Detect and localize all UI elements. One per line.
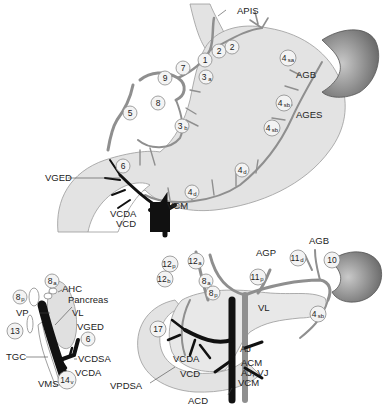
- label-ages: AGES: [296, 109, 322, 120]
- svg-text:14: 14: [60, 375, 70, 385]
- svg-text:v: v: [71, 379, 74, 385]
- label-aj: AJ: [240, 343, 251, 354]
- svg-text:2: 2: [217, 46, 222, 56]
- node-8a-frontal: 8a: [199, 274, 213, 288]
- label-agb: AGB: [296, 69, 316, 80]
- node-11d: 11d: [290, 250, 306, 266]
- node-2b: 2: [225, 40, 239, 54]
- node-8p-frontal: 8p: [206, 286, 220, 300]
- label-vcd: VCD: [180, 368, 200, 379]
- svg-text:11: 11: [291, 253, 300, 263]
- label-vged: VGED: [45, 172, 72, 183]
- node-6-lateral: 6: [81, 332, 95, 346]
- svg-text:8: 8: [202, 276, 207, 286]
- label-acd: ACD: [188, 395, 208, 406]
- label-vcm: VCM: [167, 200, 188, 211]
- node-4sb-frontal: 4sb: [310, 306, 326, 322]
- svg-text:4: 4: [312, 309, 317, 319]
- svg-text:d: d: [300, 257, 303, 263]
- svg-text:2: 2: [230, 42, 235, 52]
- svg-text:8: 8: [48, 276, 53, 286]
- label-vcdsa: VCDSA: [78, 353, 111, 364]
- node-1: 1: [198, 53, 212, 67]
- node-12b: 12b: [157, 271, 173, 287]
- svg-text:4: 4: [238, 165, 243, 175]
- svg-text:3: 3: [178, 121, 183, 131]
- label-pancreas: Pancreas: [68, 294, 108, 305]
- node-11p: 11p: [250, 269, 266, 285]
- label-vcda: VCDA: [173, 353, 200, 364]
- svg-text:3: 3: [202, 72, 207, 82]
- svg-text:8: 8: [156, 98, 161, 108]
- label-agp: AGP: [256, 247, 276, 258]
- node-7: 7: [176, 61, 190, 75]
- svg-text:5: 5: [128, 108, 133, 118]
- svg-text:sb: sb: [272, 127, 279, 133]
- svg-text:10: 10: [327, 255, 337, 265]
- pancreas-lateral-panel: AHC Pancreas VP VL VGED TGC VCDSA VCDA V…: [6, 274, 111, 389]
- svg-text:9: 9: [163, 73, 168, 83]
- label-vcda: VCDA: [75, 367, 102, 378]
- label-apis: APIS: [237, 5, 259, 16]
- svg-text:13: 13: [10, 326, 20, 336]
- node-4sb-2: 4sb: [264, 120, 280, 136]
- node-8p-lateral: 8p: [13, 290, 27, 304]
- node-12a: 12a: [188, 253, 204, 269]
- label-vl: VL: [72, 307, 84, 318]
- label-vl: VL: [258, 302, 270, 313]
- node-3b: 3b: [175, 119, 189, 133]
- label-vcd: VCD: [116, 218, 136, 229]
- svg-text:sa: sa: [288, 57, 295, 63]
- svg-text:sb: sb: [318, 313, 325, 319]
- svg-text:8: 8: [209, 288, 214, 298]
- svg-text:12: 12: [162, 259, 172, 269]
- node-8a-lateral: 8a: [45, 274, 59, 288]
- label-vms: VMS: [38, 378, 59, 389]
- node-4sb-1: 4sb: [276, 95, 292, 111]
- svg-text:17: 17: [153, 324, 163, 334]
- label-agb: AGB: [309, 235, 329, 246]
- node-12p: 12p: [162, 256, 178, 272]
- svg-text:sb: sb: [284, 102, 291, 108]
- svg-text:d: d: [193, 191, 196, 197]
- svg-text:8: 8: [16, 292, 21, 302]
- label-ahc: AHC: [62, 283, 82, 294]
- label-tgc: TGC: [6, 351, 26, 362]
- svg-text:d: d: [243, 169, 246, 175]
- svg-text:1: 1: [203, 55, 208, 65]
- svg-text:4: 4: [266, 123, 271, 133]
- node-8: 8: [151, 96, 165, 110]
- node-4d-1: 4d: [235, 163, 249, 177]
- node-14v: 14v: [58, 371, 76, 389]
- label-vged: VGED: [77, 321, 104, 332]
- node-13: 13: [7, 323, 23, 339]
- node-3a: 3a: [199, 70, 213, 84]
- svg-text:12: 12: [157, 274, 167, 284]
- node-17: 17: [150, 321, 166, 337]
- label-vp: VP: [16, 307, 29, 318]
- node-2a: 2: [212, 44, 226, 58]
- lymph-node-diagram: APIS AGB AGES VGED VCM VCDA VCD 1 2 2 3a…: [0, 0, 385, 407]
- node-4sa: 4sa: [280, 50, 296, 66]
- label-vcm: VCM: [238, 377, 259, 388]
- svg-text:4: 4: [282, 53, 287, 63]
- svg-text:11: 11: [251, 272, 260, 282]
- svg-text:4: 4: [278, 98, 283, 108]
- node-4d-2: 4d: [185, 185, 199, 199]
- node-9: 9: [158, 71, 172, 85]
- pancreas-frontal-panel: AGP AGB VL VPDSA VCDA VCD ACD AJ ACM AJ,…: [110, 235, 382, 406]
- node-5: 5: [123, 106, 137, 120]
- node-6: 6: [116, 159, 130, 173]
- svg-text:7: 7: [181, 63, 186, 73]
- svg-text:6: 6: [121, 161, 126, 171]
- label-vpdsa: VPDSA: [110, 380, 143, 391]
- node-10: 10: [324, 252, 340, 268]
- svg-text:12: 12: [188, 256, 198, 266]
- stomach-panel: APIS AGB AGES VGED VCM VCDA VCD 1 2 2 3a…: [45, 4, 379, 235]
- svg-text:4: 4: [188, 187, 193, 197]
- svg-text:6: 6: [86, 334, 91, 344]
